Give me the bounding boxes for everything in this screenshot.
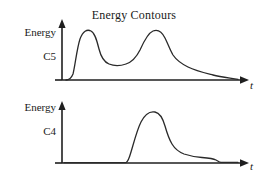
panel-c4-axes <box>55 101 249 167</box>
panel-c5-x-axis-arrow-icon <box>240 76 249 84</box>
figure-root: Energy Contours Energy C5 Energy C4 t t <box>0 0 268 183</box>
panel-c5-y-axis-arrow-icon <box>58 19 65 28</box>
panel-c5-curve <box>66 30 238 80</box>
panel-c4-curve <box>64 112 238 163</box>
panel-c4-x-axis-arrow-icon <box>240 159 249 167</box>
panel-c4-y-axis-arrow-icon <box>58 101 65 110</box>
plot-canvas <box>0 0 268 183</box>
panel-c5-axes <box>55 19 249 84</box>
